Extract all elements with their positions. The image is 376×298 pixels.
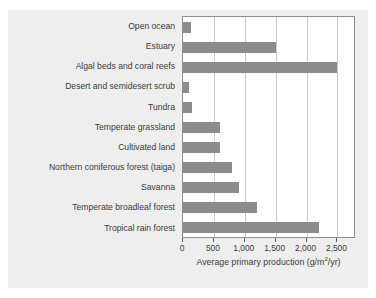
bar-row: [183, 157, 354, 177]
category-label: Tundra: [8, 97, 180, 117]
bar-row: [183, 57, 354, 77]
bar-row: [183, 117, 354, 137]
x-tick: [336, 238, 337, 242]
bar-row: [183, 177, 354, 197]
bar: [183, 222, 319, 233]
bar-row: [183, 37, 354, 57]
bar-row: [183, 17, 354, 37]
bar: [183, 162, 232, 173]
bar-row: [183, 97, 354, 117]
bar: [183, 202, 257, 213]
x-tick-label: 1,000: [233, 243, 254, 253]
x-tick-label: 2,000: [295, 243, 316, 253]
bar-row: [183, 137, 354, 157]
category-axis-labels: Open oceanEstuaryAlgal beds and coral re…: [8, 16, 180, 238]
category-label: Temperate broadleaf forest: [8, 198, 180, 218]
bar: [183, 122, 220, 133]
plot-area: [182, 16, 355, 238]
bar-row: [183, 197, 354, 217]
category-label: Open ocean: [8, 16, 180, 36]
category-label: Cultivated land: [8, 137, 180, 157]
category-label: Tropical rain forest: [8, 218, 180, 238]
bar: [183, 182, 239, 193]
bar: [183, 42, 276, 53]
x-tick: [275, 238, 276, 242]
bar: [183, 62, 337, 73]
bar: [183, 22, 191, 33]
x-tick-label: 1,500: [264, 243, 285, 253]
category-label: Estuary: [8, 36, 180, 56]
category-label: Algal beds and coral reefs: [8, 56, 180, 76]
bar: [183, 102, 192, 113]
x-tick: [244, 238, 245, 242]
x-tick: [182, 238, 183, 242]
x-tick-label: 2,500: [326, 243, 347, 253]
x-tick: [213, 238, 214, 242]
x-tick-label: 500: [206, 243, 220, 253]
category-label: Northern coniferous forest (taiga): [8, 157, 180, 177]
category-label: Desert and semidesert scrub: [8, 77, 180, 97]
x-axis-title: Average primary production (g/m2/yr): [196, 255, 340, 267]
bar-series: [183, 17, 354, 237]
bar: [183, 142, 220, 153]
category-label: Temperate grassland: [8, 117, 180, 137]
bar-row: [183, 77, 354, 97]
figure-panel: Open oceanEstuaryAlgal beds and coral re…: [8, 10, 368, 288]
bar: [183, 82, 189, 93]
x-axis: Average primary production (g/m2/yr) 050…: [182, 238, 355, 284]
x-tick: [306, 238, 307, 242]
bar-row: [183, 217, 354, 237]
x-tick-label: 0: [180, 243, 185, 253]
category-label: Savanna: [8, 178, 180, 198]
clipped-caption-text: [42, 1, 262, 11]
